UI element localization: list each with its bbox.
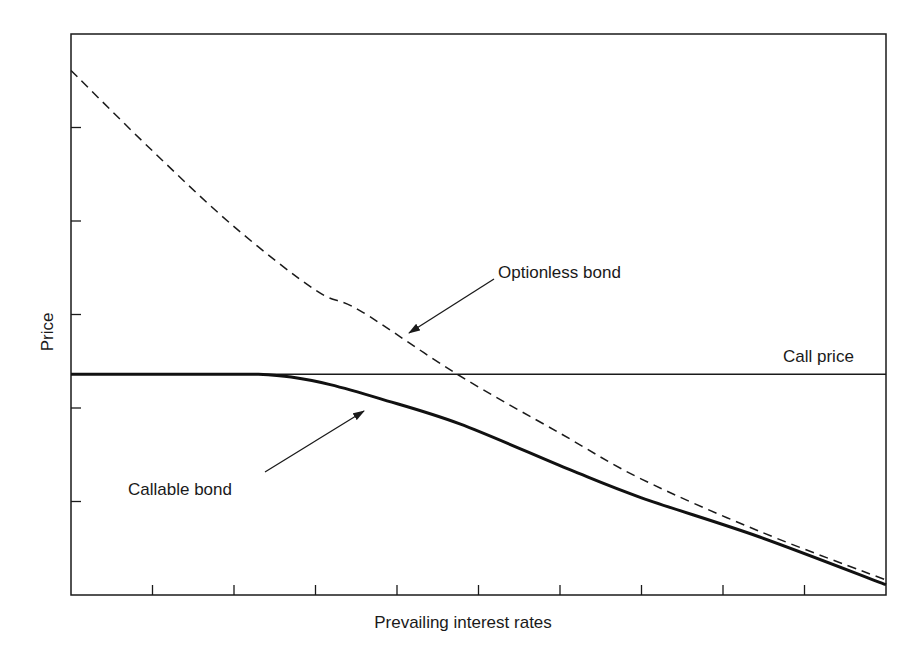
callable-bond-label: Callable bond (128, 480, 232, 499)
optionless-arrow (409, 279, 494, 333)
optionless-bond-curve (71, 71, 886, 581)
y-axis-ticks (71, 128, 81, 502)
callable-arrow (265, 411, 364, 472)
plot-frame (71, 34, 886, 595)
y-axis-title: Price (38, 313, 57, 352)
price-yield-chart: Optionless bond Callable bond Call price… (0, 0, 921, 656)
optionless-bond-label: Optionless bond (498, 263, 621, 282)
call-price-label: Call price (783, 347, 854, 366)
x-axis-title: Prevailing interest rates (374, 613, 552, 632)
x-axis-ticks (153, 585, 805, 595)
